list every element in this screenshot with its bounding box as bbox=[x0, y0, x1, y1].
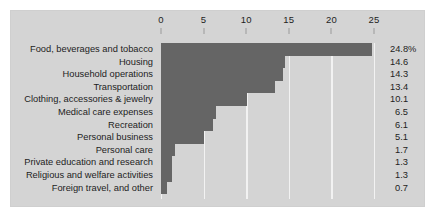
category-label: Foreign travel, and other bbox=[10, 182, 158, 195]
category-label: Medical care expenses bbox=[10, 106, 158, 119]
gridline bbox=[374, 43, 375, 199]
x-axis-tick-mark bbox=[203, 28, 204, 34]
category-label: Housing bbox=[10, 56, 158, 69]
value-label: 13.4 bbox=[384, 81, 425, 94]
category-axis-labels: Food, beverages and tobaccoHousingHouseh… bbox=[10, 43, 158, 194]
value-label: 1.3 bbox=[384, 156, 425, 169]
bar-row bbox=[161, 131, 374, 144]
bar-row bbox=[161, 144, 374, 157]
value-labels: 24.8%14.614.313.410.16.56.15.11.71.31.30… bbox=[384, 43, 425, 194]
category-label: Household operations bbox=[10, 68, 158, 81]
bar bbox=[161, 93, 247, 106]
x-axis-tick-mark bbox=[161, 28, 162, 34]
category-label: Religious and welfare activities bbox=[10, 169, 158, 182]
bar-row bbox=[161, 68, 374, 81]
value-label: 1.7 bbox=[384, 144, 425, 157]
bar-row bbox=[161, 169, 374, 182]
category-label: Personal care bbox=[10, 144, 158, 157]
category-label: Private education and research bbox=[10, 156, 158, 169]
bar-row bbox=[161, 119, 374, 132]
bar bbox=[161, 56, 285, 69]
value-label: 24.8% bbox=[384, 43, 425, 56]
value-label: 5.1 bbox=[384, 131, 425, 144]
bar bbox=[161, 68, 283, 81]
bar-row bbox=[161, 43, 374, 56]
bar bbox=[161, 144, 175, 157]
value-label: 1.3 bbox=[384, 169, 425, 182]
value-label: 14.3 bbox=[384, 68, 425, 81]
bar-row bbox=[161, 93, 374, 106]
x-axis-tick-label: 0 bbox=[158, 14, 163, 25]
x-axis-tick-label: 15 bbox=[283, 14, 294, 25]
bar bbox=[161, 182, 167, 195]
x-axis-tick-mark bbox=[374, 28, 375, 34]
chart-panel: 0510152025 Food, beverages and tobaccoHo… bbox=[10, 10, 425, 207]
bar bbox=[161, 81, 275, 94]
bar-row bbox=[161, 182, 374, 195]
x-axis-tick-label: 5 bbox=[201, 14, 206, 25]
bar bbox=[161, 156, 172, 169]
bar-series bbox=[161, 43, 374, 194]
category-label: Recreation bbox=[10, 119, 158, 132]
x-axis-tick-label: 20 bbox=[326, 14, 337, 25]
category-label: Transportation bbox=[10, 81, 158, 94]
value-label: 6.5 bbox=[384, 106, 425, 119]
chart-figure: 0510152025 Food, beverages and tobaccoHo… bbox=[0, 0, 435, 222]
category-label: Personal business bbox=[10, 131, 158, 144]
value-label: 14.6 bbox=[384, 56, 425, 69]
x-axis-tick-label: 10 bbox=[241, 14, 252, 25]
x-axis-tick-mark bbox=[331, 28, 332, 34]
bar bbox=[161, 106, 216, 119]
category-label: Clothing, accessories & jewelry bbox=[10, 93, 158, 106]
x-axis: 0510152025 bbox=[10, 10, 425, 34]
plot-area bbox=[161, 43, 374, 199]
value-label: 0.7 bbox=[384, 182, 425, 195]
category-label: Food, beverages and tobacco bbox=[10, 43, 158, 56]
value-label: 6.1 bbox=[384, 119, 425, 132]
bar bbox=[161, 131, 204, 144]
value-label: 10.1 bbox=[384, 93, 425, 106]
x-axis-tick-label: 25 bbox=[369, 14, 380, 25]
bar-row bbox=[161, 56, 374, 69]
bar bbox=[161, 43, 372, 56]
bar bbox=[161, 119, 213, 132]
bar bbox=[161, 169, 172, 182]
x-axis-tick-mark bbox=[288, 28, 289, 34]
bar-row bbox=[161, 81, 374, 94]
x-axis-tick-mark bbox=[246, 28, 247, 34]
bar-row bbox=[161, 106, 374, 119]
bar-row bbox=[161, 156, 374, 169]
